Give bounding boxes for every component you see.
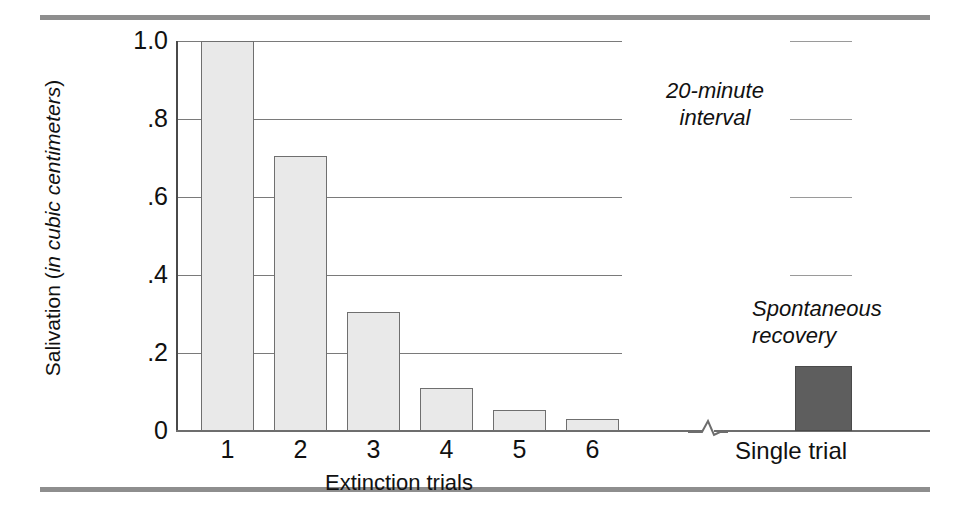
y-axis-title-italic: in cubic centimeters xyxy=(41,87,64,273)
axis-break-icon xyxy=(688,415,728,437)
gridstub-1.0 xyxy=(790,41,852,42)
xtick-5: 5 xyxy=(493,437,546,462)
y-axis-title-plain: Salivation ( xyxy=(41,272,64,376)
xtick-6: 6 xyxy=(566,437,619,462)
x-axis-title: Extinction trials xyxy=(176,470,622,496)
y-axis-title-tail: ) xyxy=(41,80,64,87)
gridstub-0.6 xyxy=(790,197,852,198)
gridstub-0.4 xyxy=(790,275,852,276)
annotation-20-minute-interval: 20-minute interval xyxy=(620,78,810,132)
annotation-spontaneous-recovery: Spontaneous recovery xyxy=(752,296,957,350)
ytick-label: .2 xyxy=(104,340,168,365)
ytick-label: 1.0 xyxy=(104,28,168,53)
bar-single-trial-recovery xyxy=(795,366,852,431)
y-axis-line xyxy=(176,41,178,432)
ytick-label: .4 xyxy=(104,262,168,287)
bar-trial-2 xyxy=(274,156,327,431)
ytick-label: .8 xyxy=(104,106,168,131)
xtick-1: 1 xyxy=(201,437,254,462)
ytick-label: 0 xyxy=(104,418,168,443)
bar-trial-6 xyxy=(566,419,619,431)
bar-trial-4 xyxy=(420,388,473,431)
bar-trial-3 xyxy=(347,312,400,431)
figure-salivation-extinction: 1.0 .8 .6 .4 .2 0 1 2 3 4 5 6 Single tri… xyxy=(0,0,961,509)
bar-trial-5 xyxy=(493,410,546,431)
top-divider-rule xyxy=(40,15,930,20)
ytick-label: .6 xyxy=(104,184,168,209)
xtick-single-trial: Single trial xyxy=(735,437,935,465)
xtick-2: 2 xyxy=(274,437,327,462)
bar-trial-1 xyxy=(201,41,254,431)
xtick-3: 3 xyxy=(347,437,400,462)
y-axis-title: Salivation (in cubic centimeters) xyxy=(41,58,65,398)
xtick-4: 4 xyxy=(420,437,473,462)
